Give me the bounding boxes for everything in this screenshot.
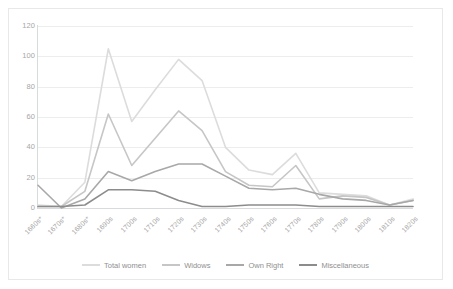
legend-label: Miscellaneous [321, 261, 369, 270]
y-axis-tick-label: 100 [9, 52, 35, 60]
legend-swatch-icon [82, 264, 100, 266]
series-lines [38, 26, 413, 208]
plot-area [38, 26, 413, 208]
legend-item[interactable]: Widows [162, 261, 210, 270]
x-axis-line [38, 208, 413, 209]
legend-swatch-icon [299, 264, 317, 266]
legend-item[interactable]: Own Right [226, 261, 283, 270]
legend-label: Widows [184, 261, 210, 270]
legend-item[interactable]: Total women [82, 261, 146, 270]
chart-legend: Total womenWidowsOwn RightMiscellaneous [9, 257, 442, 273]
legend-swatch-icon [162, 264, 180, 266]
y-axis-tick-label: 40 [9, 143, 35, 151]
legend-swatch-icon [226, 264, 244, 266]
y-axis-tick-label: 0 [9, 204, 35, 212]
y-axis-tick-label: 60 [9, 113, 35, 121]
series-line [38, 49, 413, 207]
y-axis-tick-label: 20 [9, 174, 35, 182]
legend-label: Total women [104, 261, 146, 270]
y-axis-tick-label: 80 [9, 83, 35, 91]
series-line [38, 190, 413, 207]
legend-item[interactable]: Miscellaneous [299, 261, 369, 270]
y-axis-labels: 020406080100120 [9, 26, 35, 208]
legend-label: Own Right [248, 261, 283, 270]
y-axis-tick-label: 120 [9, 22, 35, 30]
chart-container: 020406080100120 1660s*1670s*1680s*1690s1… [8, 8, 443, 280]
x-axis-labels: 1660s*1670s*1680s*1690s1700s1710s1720s17… [38, 210, 413, 256]
